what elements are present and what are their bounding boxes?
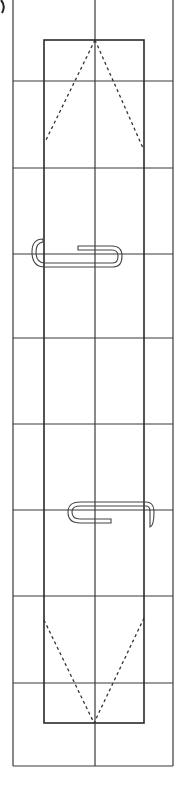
folded-paper-grid-diagram: [0, 0, 182, 785]
background: [0, 0, 182, 785]
